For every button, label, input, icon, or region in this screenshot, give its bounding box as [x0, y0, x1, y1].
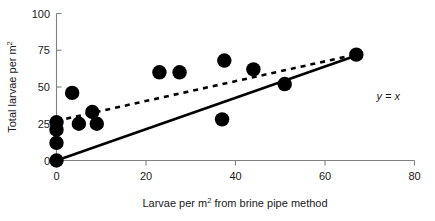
y-tick-label-75: 75: [38, 44, 50, 56]
fit-lines-group: [57, 54, 359, 161]
data-point: [49, 153, 63, 167]
y-tick-label-0: 0: [44, 155, 50, 167]
y-axis-title: Total larvae per m2: [5, 41, 18, 133]
y-axis-title-superscript: 2: [5, 41, 14, 45]
identity-line-label: y = x: [375, 90, 400, 102]
regression-fit: [57, 54, 359, 121]
x-axis-title: Larvae per m2 from brine pipe method: [142, 196, 327, 209]
data-point: [278, 77, 292, 91]
y-tick-label-100: 100: [32, 8, 50, 20]
y-axis-title-text: Total larvae per m: [6, 45, 18, 132]
data-point: [217, 53, 231, 67]
scatter-plot-figure: 100 75 50 25 0 0 20 40 60 80 y = x: [0, 0, 435, 221]
data-point: [172, 65, 186, 79]
data-point: [49, 136, 63, 150]
data-point: [349, 47, 363, 61]
data-point: [90, 117, 104, 131]
data-point: [65, 86, 79, 100]
identity-line: [57, 55, 359, 161]
x-axis-title-text: Larvae per m: [142, 197, 207, 209]
x-tick-label-0: 0: [53, 170, 59, 182]
svg-text:Total larvae per m2: Total larvae per m2: [5, 41, 18, 133]
data-point: [215, 112, 229, 126]
svg-text:Larvae per m2 from brine pipe: Larvae per m2 from brine pipe method: [142, 196, 327, 209]
data-point: [152, 65, 166, 79]
plot-canvas: 100 75 50 25 0 0 20 40 60 80 y = x: [0, 0, 435, 221]
identity-line-annotation: y = x: [375, 90, 400, 102]
data-point: [72, 117, 86, 131]
data-point: [246, 62, 260, 76]
x-tick-label-60: 60: [319, 170, 331, 182]
x-axis: 0 20 40 60 80: [53, 161, 420, 183]
y-tick-label-25: 25: [38, 118, 50, 130]
x-tick-label-40: 40: [229, 170, 241, 182]
data-point: [49, 115, 63, 129]
x-axis-title-text-tail: from brine pipe method: [211, 197, 327, 209]
x-tick-label-80: 80: [408, 170, 420, 182]
x-tick-label-20: 20: [140, 170, 152, 182]
y-tick-label-50: 50: [38, 81, 50, 93]
